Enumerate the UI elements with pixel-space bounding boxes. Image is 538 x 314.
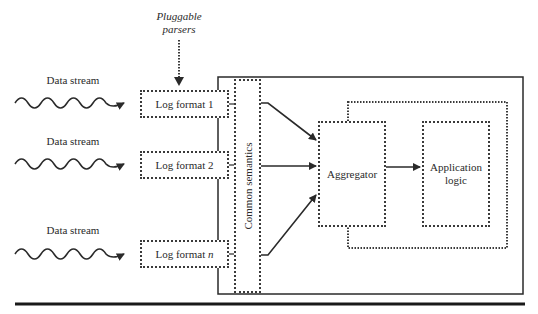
stream-label-1: Data stream	[26, 74, 120, 86]
application-logic-line-1: Application	[430, 161, 482, 174]
log-format-2-label: Log format	[155, 159, 208, 171]
pluggable-parsers-label: Pluggable parsers	[149, 10, 209, 36]
aggregator-label: Aggregator	[327, 168, 377, 180]
stream-label-n: Data stream	[26, 224, 120, 236]
log-format-1-box: Log format 1	[140, 90, 229, 118]
aggregator-box: Aggregator	[318, 121, 386, 227]
application-logic-box: Application logic	[422, 121, 490, 227]
log-format-n-box: Log format n	[140, 240, 229, 268]
annotation-line-2: parsers	[149, 23, 209, 36]
stream-wave-2	[15, 159, 124, 169]
stream-label-2: Data stream	[26, 135, 120, 147]
common-semantics-strip: Common semantics	[234, 79, 261, 293]
log-format-1-label: Log format	[155, 98, 208, 110]
application-logic-line-2: logic	[445, 174, 467, 187]
common-semantics-label: Common semantics	[242, 142, 254, 229]
log-format-n-label: Log format	[155, 248, 208, 260]
stream-wave-1	[15, 98, 124, 108]
annotation-line-1: Pluggable	[149, 10, 209, 23]
stream-wave-n	[15, 249, 124, 259]
log-format-2-box: Log format 2	[140, 151, 229, 179]
